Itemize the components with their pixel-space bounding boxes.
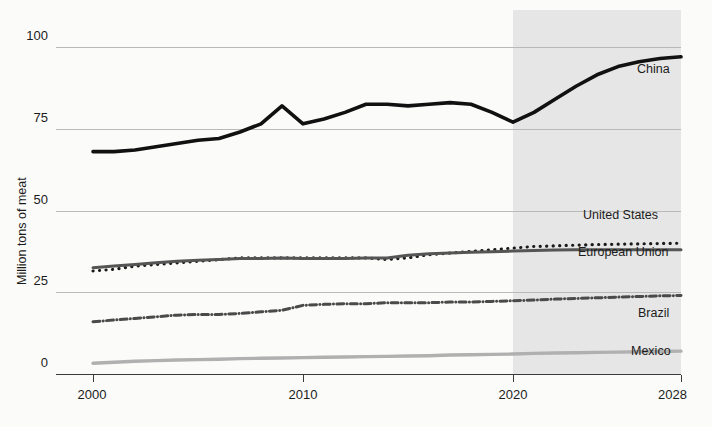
- series-label-mexico: Mexico: [631, 344, 671, 358]
- y-tick-label-0: 0: [41, 355, 48, 370]
- y-tick-label-25: 25: [34, 273, 48, 288]
- series-label-brazil: Brazil: [638, 306, 669, 320]
- y-tick-label-100: 100: [26, 28, 48, 43]
- x-tick-label-2000: 2000: [78, 387, 107, 402]
- x-tick-label-2028: 2028: [658, 387, 687, 402]
- x-tick-label-2010: 2010: [289, 387, 318, 402]
- y-axis-title: Million tons of meat: [15, 177, 29, 285]
- y-tick-label-75: 75: [34, 110, 48, 125]
- chart-page: 0255075100 2000201020202028 ChinaUnited …: [0, 0, 712, 427]
- series-label-united-states: United States: [583, 208, 658, 222]
- y-axis-title-group: Million tons of meat: [15, 177, 29, 285]
- x-tick-label-2020: 2020: [499, 387, 528, 402]
- y-tick-label-50: 50: [34, 192, 48, 207]
- series-label-european-union: European Union: [578, 245, 668, 259]
- line-chart: 0255075100 2000201020202028 ChinaUnited …: [0, 0, 712, 427]
- series-label-china: China: [637, 62, 670, 76]
